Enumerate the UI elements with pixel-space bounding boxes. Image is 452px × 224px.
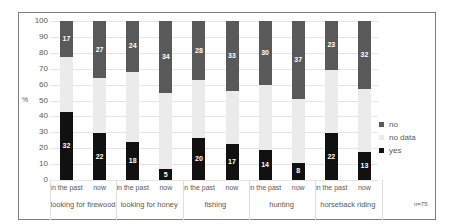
group-label: looking for honey bbox=[116, 200, 182, 209]
bar-segment-no-data bbox=[60, 57, 73, 112]
legend-item-no: no bbox=[379, 120, 398, 129]
legend-swatch-no bbox=[379, 122, 384, 127]
x-tick-label: in the past bbox=[182, 184, 215, 191]
bar-segment-no-data bbox=[192, 80, 205, 137]
x-tick-label: now bbox=[348, 184, 381, 191]
x-tick-label: now bbox=[216, 184, 249, 191]
x-tick-label: in the past bbox=[50, 184, 83, 191]
value-label-no: 28 bbox=[192, 47, 205, 54]
value-label-no: 37 bbox=[292, 56, 305, 63]
value-label-yes: 20 bbox=[192, 155, 205, 162]
y-tick-label: 40 bbox=[28, 111, 48, 120]
x-tick-label: now bbox=[149, 184, 182, 191]
x-tick-label: in the past bbox=[116, 184, 149, 191]
bar-segment-no-data bbox=[226, 91, 239, 144]
bar-segment-no-data bbox=[126, 72, 139, 142]
legend-label-no-data: no data bbox=[389, 133, 416, 142]
y-tick-label: 60 bbox=[28, 80, 48, 89]
group-separator bbox=[382, 180, 383, 220]
y-tick-label: 80 bbox=[28, 48, 48, 57]
group-separator bbox=[116, 180, 117, 220]
value-label-yes: 22 bbox=[325, 153, 338, 160]
value-label-no: 24 bbox=[126, 42, 139, 49]
y-tick-label: 70 bbox=[28, 64, 48, 73]
x-tick-label: now bbox=[83, 184, 116, 191]
value-label-no: 17 bbox=[60, 35, 73, 42]
legend-label-yes: yes bbox=[389, 146, 401, 155]
legend-label-no: no bbox=[389, 120, 398, 129]
gridline bbox=[50, 180, 378, 181]
group-label: looking for firewood bbox=[50, 200, 116, 209]
y-tick-label: 100 bbox=[28, 16, 48, 25]
value-label-no: 34 bbox=[159, 53, 172, 60]
group-label: horseback riding bbox=[315, 200, 381, 209]
value-label-no: 32 bbox=[358, 51, 371, 58]
bar-segment-no-data bbox=[325, 70, 338, 134]
legend-item-no-data: no data bbox=[379, 133, 416, 142]
sample-size-note: n=75 bbox=[414, 201, 428, 207]
value-label-yes: 5 bbox=[159, 171, 172, 178]
value-label-no: 30 bbox=[259, 49, 272, 56]
legend-swatch-no-data bbox=[379, 135, 384, 140]
value-label-yes: 8 bbox=[292, 167, 305, 174]
y-tick-label: 90 bbox=[28, 32, 48, 41]
group-separator bbox=[249, 180, 250, 220]
group-separator bbox=[315, 180, 316, 220]
legend-swatch-yes bbox=[379, 148, 384, 153]
value-label-yes: 14 bbox=[259, 161, 272, 168]
group-label: fishing bbox=[182, 200, 248, 209]
y-tick-label: 0 bbox=[28, 175, 48, 184]
y-tick-label: 50 bbox=[28, 96, 48, 105]
y-tick-label: 30 bbox=[28, 127, 48, 136]
value-label-yes: 17 bbox=[226, 158, 239, 165]
x-tick-label: now bbox=[282, 184, 315, 191]
group-separator bbox=[183, 180, 184, 220]
x-tick-label: in the past bbox=[315, 184, 348, 191]
value-label-yes: 13 bbox=[358, 162, 371, 169]
value-label-no: 33 bbox=[226, 52, 239, 59]
value-label-yes: 32 bbox=[60, 142, 73, 149]
group-separator bbox=[50, 180, 51, 220]
value-label-yes: 18 bbox=[126, 157, 139, 164]
value-label-no: 23 bbox=[325, 41, 338, 48]
y-tick-label: 10 bbox=[28, 159, 48, 168]
y-tick-label: 20 bbox=[28, 143, 48, 152]
group-label: hunting bbox=[249, 200, 315, 209]
value-label-no: 27 bbox=[93, 46, 106, 53]
value-label-yes: 22 bbox=[93, 153, 106, 160]
x-tick-label: in the past bbox=[249, 184, 282, 191]
bar-segment-no-data bbox=[259, 85, 272, 151]
bar-segment-no-data bbox=[292, 99, 305, 163]
bar-segment-no-data bbox=[159, 93, 172, 169]
legend-item-yes: yes bbox=[379, 146, 401, 155]
bar-segment-no-data bbox=[358, 89, 371, 153]
bar-segment-no-data bbox=[93, 78, 106, 133]
